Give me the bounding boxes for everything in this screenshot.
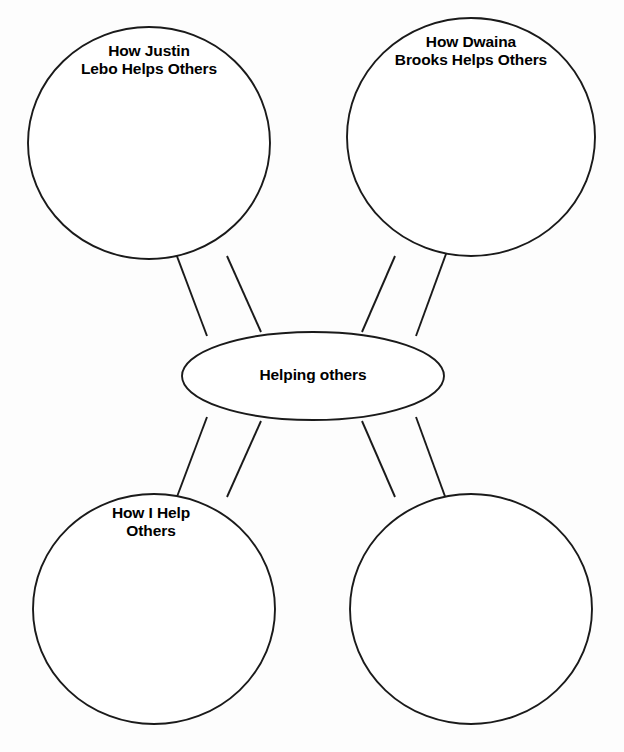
- connector-top-right: [362, 243, 450, 336]
- branch-label-top-left: How Justin Lebo Helps Others: [48, 42, 250, 78]
- connector-bottom-left: [172, 417, 261, 510]
- connector-bottom-right: [362, 417, 450, 510]
- center-label: Helping others: [183, 366, 443, 384]
- branch-label-top-right: How Dwaina Brooks Helps Others: [369, 33, 573, 69]
- branch-label-bottom-left: How I Help Others: [52, 504, 250, 540]
- graphic-organizer: How Justin Lebo Helps Others How Dwaina …: [0, 0, 624, 752]
- branch-circle-bottom-right[interactable]: [350, 494, 592, 724]
- connector-top-left: [172, 243, 261, 336]
